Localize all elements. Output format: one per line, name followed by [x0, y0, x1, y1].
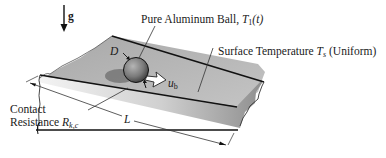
- contact-sub: k,c: [69, 121, 78, 130]
- gravity-label: g: [68, 10, 74, 22]
- diameter-label: D: [110, 45, 118, 57]
- surface-temp-label: Surface Temperature Ts (Uniform): [218, 45, 376, 61]
- surface-label-suffix: (Uniform): [329, 45, 376, 57]
- velocity-sub: b: [174, 82, 178, 91]
- gravity-arrow-icon: [61, 5, 68, 32]
- ball-label-text: Pure Aluminum Ball,: [141, 13, 239, 25]
- length-label: L: [124, 113, 130, 125]
- contact-label-line1: Contact: [10, 103, 46, 115]
- contact-label-text: Resistance: [10, 116, 59, 128]
- ball-temp-arg: (t): [252, 13, 263, 25]
- aluminum-ball: [124, 58, 149, 83]
- surface-temp-sub: s: [323, 50, 326, 59]
- surface-label-text: Surface Temperature: [218, 45, 314, 57]
- ball-label: Pure Aluminum Ball, T1(t): [141, 13, 263, 29]
- contact-label-line2: Resistance Rk,c: [10, 116, 78, 132]
- diagram-canvas: g Pure Aluminum Ball, T1(t) D ub Surface…: [0, 0, 386, 158]
- velocity-label: ub: [168, 77, 178, 93]
- diameter-symbol: D: [110, 45, 118, 57]
